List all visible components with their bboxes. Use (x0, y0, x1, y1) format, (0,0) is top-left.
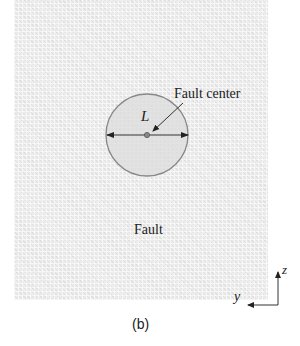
figure-caption: (b) (132, 316, 149, 332)
diameter-label: L (141, 108, 149, 125)
fault-diagram: Fault center L Fault z y (b) (0, 0, 300, 346)
diagram-graphics (0, 0, 300, 346)
fault-center-label: Fault center (174, 86, 240, 102)
center-point-icon (144, 132, 149, 137)
y-axis-label: y (234, 289, 240, 305)
z-axis-label: z (282, 262, 287, 278)
fault-region-label: Fault (134, 222, 163, 238)
